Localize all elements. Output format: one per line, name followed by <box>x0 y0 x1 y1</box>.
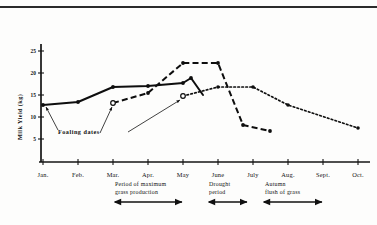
series-dashed-mid-foaling <box>111 61 272 133</box>
series-solid-early-foaling <box>41 76 203 107</box>
plot-area <box>0 0 377 225</box>
axis-lines <box>39 44 370 162</box>
series-dotted-late-foaling <box>181 85 360 130</box>
figure-canvas: Milk Yield (kg) 25 20 15 10 5 Jan. Feb. … <box>0 0 377 225</box>
